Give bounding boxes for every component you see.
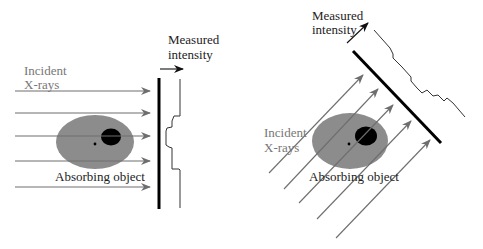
absorbing-object-label: Absorbing object	[55, 169, 145, 184]
small-inclusion	[94, 143, 97, 146]
incident-xrays-label-line1: Incident	[264, 125, 307, 140]
small-inclusion	[348, 143, 351, 146]
dense-inclusion	[355, 127, 377, 146]
measured-intensity-label-line2: intensity	[312, 22, 357, 37]
incident-xrays-label-line2: X-rays	[264, 140, 299, 155]
right-panel: Incident X-rays Measured intensity Absor…	[264, 8, 465, 238]
measured-intensity-label-line2: intensity	[168, 47, 213, 62]
incident-xrays-label-line2: X-rays	[24, 77, 59, 92]
intensity-profile	[166, 79, 180, 208]
absorbing-object-label: Absorbing object	[309, 169, 399, 184]
measured-intensity-label-line1: Measured	[312, 8, 364, 23]
incident-xrays-label-line1: Incident	[24, 63, 67, 78]
dense-inclusion	[101, 129, 121, 146]
left-panel: Incident X-rays Measured intensity Absor…	[15, 32, 220, 209]
xray-projection-diagram: Incident X-rays Measured intensity Absor…	[0, 0, 483, 249]
intensity-profile	[374, 30, 465, 117]
measured-intensity-label-line1: Measured	[168, 32, 220, 47]
